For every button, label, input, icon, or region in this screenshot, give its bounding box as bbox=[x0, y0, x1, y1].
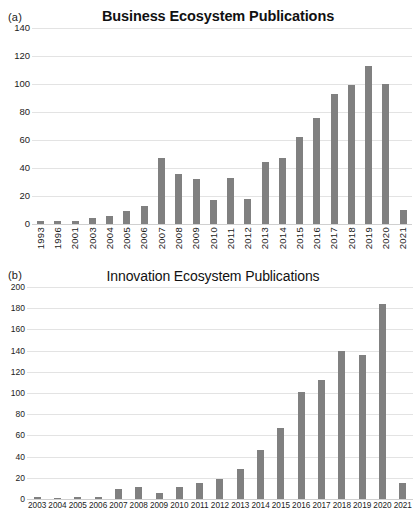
bar-slot bbox=[377, 28, 394, 224]
panel-label-b: (b) bbox=[8, 269, 22, 281]
bar-slot bbox=[149, 287, 169, 499]
panel-label-a: (a) bbox=[8, 11, 22, 23]
bar bbox=[244, 199, 251, 224]
x-slot: 2010 bbox=[169, 502, 189, 510]
x-axis-tick: 2020 bbox=[373, 502, 391, 510]
bar bbox=[37, 221, 44, 224]
x-axis-tick: 2007 bbox=[109, 502, 127, 510]
x-axis-tick: 2017 bbox=[329, 227, 339, 249]
bar-slot bbox=[393, 287, 413, 499]
x-axis-tick: 2012 bbox=[243, 227, 253, 249]
x-axis-tick: 2014 bbox=[278, 227, 288, 249]
bar bbox=[156, 493, 163, 499]
bar bbox=[196, 483, 203, 499]
y-axis-tick: 40 bbox=[16, 452, 25, 461]
y-axis-tick: 40 bbox=[19, 163, 30, 173]
bar bbox=[158, 158, 165, 224]
x-axis-tick: 1993 bbox=[36, 227, 46, 249]
bar-slot bbox=[311, 287, 331, 499]
x-slot: 2021 bbox=[395, 227, 412, 249]
bar-slot bbox=[230, 287, 250, 499]
bar bbox=[210, 200, 217, 224]
bar bbox=[216, 479, 223, 499]
bar-slot bbox=[256, 28, 273, 224]
x-axis-tick: 1996 bbox=[53, 227, 63, 249]
x-axis-tick: 2003 bbox=[28, 502, 46, 510]
y-axis-tick: 120 bbox=[14, 51, 30, 61]
bar bbox=[399, 483, 406, 499]
bar-slot bbox=[88, 287, 108, 499]
bar bbox=[193, 179, 200, 224]
gridline bbox=[27, 499, 413, 500]
x-axis-tick: 2004 bbox=[48, 502, 66, 510]
x-axis-tick: 2010 bbox=[209, 227, 219, 249]
bar bbox=[298, 392, 305, 499]
bar-slot bbox=[222, 28, 239, 224]
bar bbox=[176, 487, 183, 499]
bar-slot bbox=[27, 287, 47, 499]
x-axis-tick: 2013 bbox=[260, 227, 270, 249]
x-slot: 2019 bbox=[360, 227, 377, 249]
bar-slot bbox=[205, 28, 222, 224]
x-slot: 2011 bbox=[190, 502, 210, 510]
bar-slot bbox=[332, 287, 352, 499]
bar bbox=[175, 174, 182, 224]
x-axis-tick: 2006 bbox=[139, 227, 149, 249]
bar bbox=[379, 304, 386, 499]
x-axis-tick: 2015 bbox=[272, 502, 290, 510]
x-slot: 2011 bbox=[222, 227, 239, 249]
bar bbox=[262, 162, 269, 224]
x-axis-tick: 2005 bbox=[69, 502, 87, 510]
bar bbox=[141, 206, 148, 224]
x-slot: 2017 bbox=[326, 227, 343, 249]
x-axis-tick: 2016 bbox=[312, 227, 322, 249]
plot-wrapper-b: 020406080100120140160180200 200320042005… bbox=[0, 287, 418, 517]
chart-panel-b: (b) Innovation Ecosystem Publications 02… bbox=[0, 265, 418, 531]
x-axis-tick: 2001 bbox=[70, 227, 80, 249]
x-axis-tick: 2006 bbox=[89, 502, 107, 510]
x-axis-tick: 2019 bbox=[353, 502, 371, 510]
x-slot: 2016 bbox=[291, 502, 311, 510]
x-slot: 1996 bbox=[49, 227, 66, 249]
x-slot: 2019 bbox=[352, 502, 372, 510]
x-slot: 2015 bbox=[271, 502, 291, 510]
bar bbox=[74, 497, 81, 499]
bar-slot bbox=[210, 287, 230, 499]
bar bbox=[123, 211, 130, 224]
bar bbox=[257, 450, 264, 499]
bar-slot bbox=[326, 28, 343, 224]
bar-slot bbox=[274, 28, 291, 224]
x-slot: 2021 bbox=[393, 502, 413, 510]
y-axis-tick: 0 bbox=[20, 495, 25, 504]
bar-slot bbox=[136, 28, 153, 224]
bar bbox=[338, 351, 345, 499]
bar bbox=[348, 85, 355, 224]
bar-slot bbox=[84, 28, 101, 224]
bar bbox=[279, 158, 286, 224]
x-slot: 2009 bbox=[149, 502, 169, 510]
chart-title-a: Business Ecosystem Publications bbox=[0, 0, 418, 24]
x-axis-tick: 2008 bbox=[174, 227, 184, 249]
bar-slot bbox=[101, 28, 118, 224]
x-axis-tick: 2009 bbox=[150, 502, 168, 510]
bar bbox=[382, 84, 389, 224]
x-axis-tick: 2007 bbox=[157, 227, 167, 249]
y-axis-tick: 80 bbox=[16, 410, 25, 419]
x-slot: 2020 bbox=[377, 227, 394, 249]
x-axis-tick: 2004 bbox=[105, 227, 115, 249]
bar bbox=[115, 489, 122, 499]
y-axis-tick: 120 bbox=[11, 368, 25, 377]
bar bbox=[313, 118, 320, 224]
bar-slot bbox=[67, 28, 84, 224]
x-axis-tick: 2013 bbox=[231, 502, 249, 510]
bar-slot bbox=[129, 287, 149, 499]
y-axis-tick: 200 bbox=[11, 283, 25, 292]
bar-slot bbox=[47, 287, 67, 499]
x-slot: 2015 bbox=[291, 227, 308, 249]
bar bbox=[365, 66, 372, 224]
bar-slot bbox=[291, 287, 311, 499]
x-slot: 2008 bbox=[129, 502, 149, 510]
x-slot: 2007 bbox=[153, 227, 170, 249]
bar bbox=[72, 221, 79, 224]
bar bbox=[237, 469, 244, 499]
